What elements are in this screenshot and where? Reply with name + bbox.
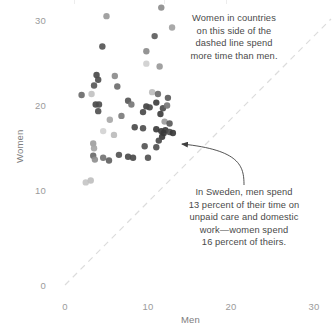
data-point xyxy=(118,113,124,119)
data-point xyxy=(107,117,113,123)
data-point xyxy=(95,108,101,114)
data-point xyxy=(143,48,149,54)
data-point xyxy=(151,33,157,39)
data-point xyxy=(111,132,117,138)
data-point xyxy=(149,89,155,95)
parity-annotation-text: Women in countries on this side of the d… xyxy=(172,12,296,62)
y-axis-title: Women xyxy=(14,129,25,163)
data-point xyxy=(141,143,147,149)
y-tick-10: 10 xyxy=(22,185,46,196)
data-point xyxy=(145,155,151,161)
data-point xyxy=(100,128,106,134)
sweden-annotation-text: In Sweden, men spend 13 percent of their… xyxy=(178,186,310,249)
data-point xyxy=(100,155,106,161)
data-point xyxy=(164,102,170,108)
data-point xyxy=(156,137,162,143)
sweden-callout-arrow xyxy=(182,144,244,185)
data-point xyxy=(88,177,94,183)
y-tick-20: 20 xyxy=(22,100,46,111)
data-point xyxy=(132,124,138,130)
data-point xyxy=(103,13,109,19)
data-point xyxy=(130,155,136,161)
x-tick-10: 10 xyxy=(136,301,160,312)
data-point xyxy=(128,101,134,107)
data-point xyxy=(153,99,159,105)
x-axis-title: Men xyxy=(181,314,200,325)
data-point xyxy=(155,91,161,97)
data-point xyxy=(140,125,146,131)
data-point xyxy=(165,95,171,101)
data-point xyxy=(91,82,97,88)
data-point xyxy=(95,77,101,83)
data-point xyxy=(156,63,162,69)
data-points-layer xyxy=(78,4,176,185)
data-point-sweden xyxy=(170,130,176,136)
data-point xyxy=(158,4,164,10)
data-point xyxy=(92,156,98,162)
y-tick-0: 0 xyxy=(22,280,46,291)
data-point xyxy=(114,83,120,89)
data-point xyxy=(140,109,146,115)
data-point xyxy=(166,120,172,126)
scatter-chart: 30 20 10 0 0 10 20 30 Men Women Women in… xyxy=(0,0,335,326)
data-point xyxy=(106,157,112,163)
data-point xyxy=(78,92,84,98)
x-tick-30: 30 xyxy=(302,301,326,312)
x-tick-0: 0 xyxy=(53,301,77,312)
data-point xyxy=(143,60,149,66)
data-point xyxy=(96,101,102,107)
data-point xyxy=(146,104,152,110)
data-point xyxy=(88,91,94,97)
data-point xyxy=(116,152,122,158)
data-point xyxy=(157,111,163,117)
x-tick-20: 20 xyxy=(219,301,243,312)
data-point xyxy=(153,144,159,150)
data-point xyxy=(91,145,97,151)
data-point xyxy=(112,73,118,79)
data-point xyxy=(99,43,105,49)
y-tick-30: 30 xyxy=(22,15,46,26)
